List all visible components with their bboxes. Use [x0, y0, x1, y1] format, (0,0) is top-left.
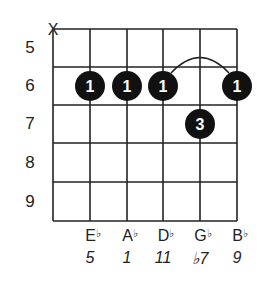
fret-number-label: 8: [20, 153, 40, 173]
note-name-label: E♭: [78, 227, 108, 245]
svg-text:1: 1: [233, 78, 242, 95]
interval-label: 5: [75, 249, 105, 267]
finger-dot: 1: [148, 71, 178, 101]
note-name-label: A♭: [115, 227, 145, 245]
finger-dot: 3: [185, 109, 215, 139]
fret-number-label: 5: [20, 38, 40, 58]
fret-number-label: 9: [20, 192, 40, 212]
interval-label: 9: [222, 249, 252, 267]
svg-text:1: 1: [159, 78, 168, 95]
muted-string-marker: X: [48, 21, 59, 38]
finger-dot: 1: [112, 71, 142, 101]
finger-dot: 1: [222, 71, 252, 101]
note-name-label: D♭: [151, 227, 181, 245]
svg-text:1: 1: [86, 78, 95, 95]
interval-label: ♭7: [185, 249, 215, 268]
note-name-label: G♭: [188, 227, 218, 245]
note-name-label: B♭: [225, 227, 255, 245]
fret-number-label: 7: [20, 114, 40, 134]
fret-number-label: 6: [20, 76, 40, 96]
finger-dot: 1: [75, 71, 105, 101]
svg-text:1: 1: [123, 78, 132, 95]
interval-label: 11: [148, 249, 178, 267]
svg-text:3: 3: [196, 116, 205, 133]
interval-label: 1: [112, 249, 142, 267]
